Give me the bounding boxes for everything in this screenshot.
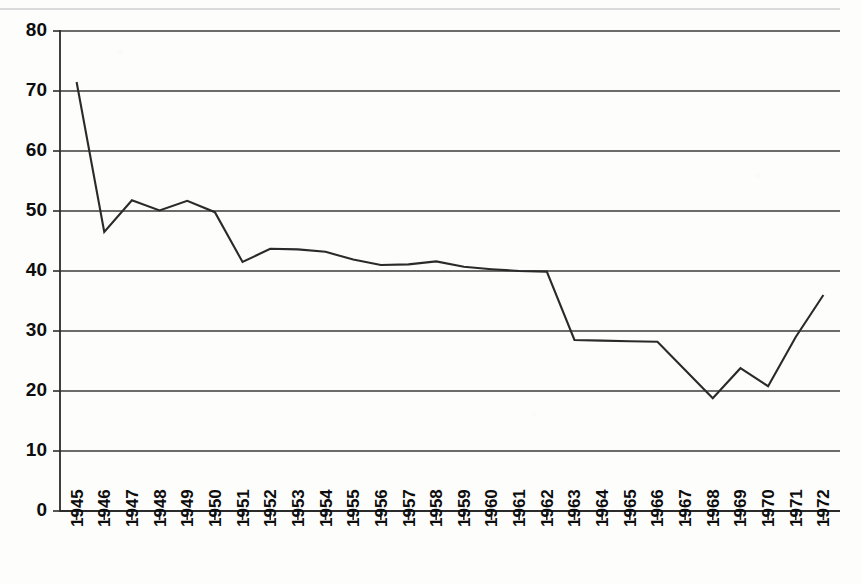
x-tick-label-1967: 1967 [676,489,695,527]
x-tick-label-1964: 1964 [593,489,612,527]
line-chart: 01020304050607080 1945194619471948194919… [0,0,861,584]
x-tick-label-1950: 1950 [206,489,225,527]
x-tick-label-1947: 1947 [123,489,142,527]
x-tick-label-1946: 1946 [95,489,114,527]
y-axis [53,30,60,512]
chart-container: 01020304050607080 1945194619471948194919… [0,0,861,584]
x-tick-label-1955: 1955 [344,489,363,527]
x-tick-label-1958: 1958 [427,489,446,527]
y-tick-label-60: 60 [26,139,47,160]
x-tick-label-1971: 1971 [787,489,806,527]
y-tick-label-10: 10 [26,439,47,460]
x-tick-label-1968: 1968 [704,489,723,527]
data-series [77,82,824,398]
x-tick-label-1966: 1966 [648,489,667,527]
y-tick-labels: 01020304050607080 [26,19,47,520]
x-tick-label-1959: 1959 [455,489,474,527]
x-tick-label-1972: 1972 [814,489,833,527]
y-tick-label-50: 50 [26,199,47,220]
x-tick-label-1963: 1963 [565,489,584,527]
gridlines [60,31,840,511]
series-line-1 [77,82,824,398]
x-tick-label-1960: 1960 [482,489,501,527]
x-tick-label-1961: 1961 [510,489,529,527]
x-tick-label-1951: 1951 [234,489,253,527]
x-tick-label-1957: 1957 [400,489,419,527]
x-tick-label-1965: 1965 [621,489,640,527]
x-axis [60,511,840,520]
x-tick-labels: 1945194619471948194919501951195219531954… [68,489,834,527]
x-tick-label-1949: 1949 [178,489,197,527]
x-tick-label-1956: 1956 [372,489,391,527]
y-tick-label-80: 80 [26,19,47,40]
x-tick-label-1962: 1962 [538,489,557,527]
x-tick-label-1948: 1948 [151,489,170,527]
x-tick-label-1952: 1952 [261,489,280,527]
y-tick-label-20: 20 [26,379,47,400]
x-tick-label-1954: 1954 [317,489,336,527]
x-tick-label-1969: 1969 [731,489,750,527]
y-tick-label-70: 70 [26,79,47,100]
x-tick-label-1953: 1953 [289,489,308,527]
y-tick-label-30: 30 [26,319,47,340]
y-tick-label-40: 40 [26,259,47,280]
x-tick-label-1945: 1945 [68,489,87,527]
x-tick-label-1970: 1970 [759,489,778,527]
y-tick-label-0: 0 [36,499,47,520]
